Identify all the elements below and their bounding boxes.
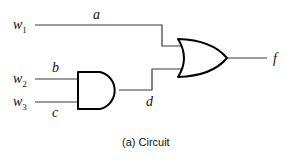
signal-label-a: a bbox=[93, 7, 100, 22]
signal-label-d: d bbox=[146, 94, 154, 109]
circuit-diagram: w1 w2 w3 a b c d f (a) Circuit bbox=[0, 0, 293, 167]
and-gate bbox=[78, 72, 115, 109]
wire-d bbox=[119, 69, 184, 90]
input-label-w3: w3 bbox=[13, 94, 27, 112]
or-gate bbox=[178, 39, 227, 77]
input-label-w2: w2 bbox=[13, 71, 27, 89]
signal-label-b: b bbox=[52, 60, 59, 75]
signal-label-c: c bbox=[52, 105, 59, 120]
output-label-f: f bbox=[273, 51, 279, 66]
wire-a bbox=[35, 25, 182, 46]
figure-caption: (a) Circuit bbox=[122, 136, 170, 148]
input-label-w1: w1 bbox=[13, 17, 27, 35]
